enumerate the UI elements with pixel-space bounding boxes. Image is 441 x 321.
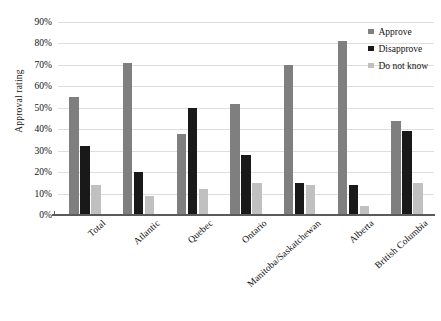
y-axis-tick-labels: 0%10%20%30%40%50%60%70%80%90%: [0, 22, 52, 215]
x-axis-label: British Columbia: [373, 218, 430, 270]
bar-disapprove: [402, 131, 412, 215]
x-axis-label: Total: [86, 218, 107, 239]
y-axis-tick-label: 40%: [6, 124, 52, 134]
y-axis-tick-label: 70%: [6, 60, 52, 70]
x-axis-label: Quebec: [186, 218, 215, 245]
approval-rating-bar-chart: Approval rating 0%10%20%30%40%50%60%70%8…: [0, 0, 441, 321]
y-axis-tick-label: 90%: [6, 17, 52, 27]
y-axis-tick-label: 80%: [6, 38, 52, 48]
x-axis-label: Atlantic: [131, 218, 161, 246]
bar-donotknow: [413, 183, 423, 215]
x-axis-category-labels: TotalAtlanticQuebecOntarioManitoba/Saska…: [58, 216, 434, 321]
legend-item: Approve: [368, 24, 441, 39]
legend-label: Approve: [379, 27, 412, 37]
legend-label: Do not know: [379, 61, 429, 71]
legend-square-icon: [368, 46, 374, 52]
x-axis-label: Ontario: [240, 218, 269, 245]
legend-label: Disapprove: [379, 44, 423, 54]
chart-legend: ApproveDisapproveDo not know: [368, 24, 441, 75]
y-axis-tick-label: 0%: [6, 210, 52, 220]
x-axis-label: Alberta: [348, 218, 376, 245]
y-axis-tick-label: 50%: [6, 103, 52, 113]
legend-square-icon: [368, 63, 374, 69]
legend-square-icon: [368, 29, 374, 35]
y-axis-tick-label: 10%: [6, 189, 52, 199]
bar-approve: [391, 121, 401, 215]
x-axis-origin-tick: [54, 211, 55, 215]
legend-item: Disapprove: [368, 41, 441, 56]
y-axis-tick-label: 20%: [6, 167, 52, 177]
y-axis-tick-label: 30%: [6, 146, 52, 156]
legend-item: Do not know: [368, 58, 441, 73]
y-axis-tick-label: 60%: [6, 81, 52, 91]
